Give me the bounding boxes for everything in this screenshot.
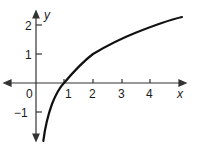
y-axis: [33, 11, 42, 141]
x-axis: [4, 79, 186, 86]
log-graph: y x 2 1 −1 0 1 2 3 4: [0, 0, 197, 148]
x-tick-3: 3: [118, 87, 125, 101]
x-tick-4: 4: [146, 87, 153, 101]
y-axis-label: y: [43, 8, 51, 22]
y-tick-1: 1: [25, 48, 32, 62]
x-tick-1: 1: [65, 87, 72, 101]
x-tick-0: 0: [26, 87, 33, 101]
y-tick-neg1: −1: [14, 106, 28, 120]
x-tick-2: 2: [89, 87, 96, 101]
y-tick-2: 2: [25, 19, 32, 33]
x-axis-label: x: [176, 87, 184, 101]
